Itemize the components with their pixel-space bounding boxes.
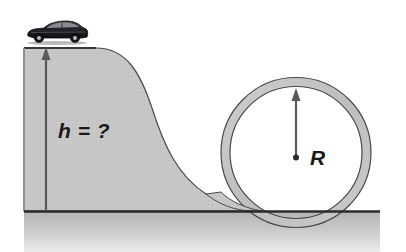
radius-label: R	[310, 146, 326, 169]
physics-diagram-figure: h = ? R	[0, 0, 406, 252]
radius-arrow	[292, 88, 301, 161]
car-wheel-rear	[34, 33, 43, 42]
car-shadow	[27, 41, 87, 45]
car-beltline	[31, 32, 85, 33]
loop-center-dot	[293, 155, 299, 161]
diagram-canvas: h = ? R	[0, 0, 406, 252]
height-label: h = ?	[58, 119, 110, 142]
car	[27, 21, 88, 45]
radius-arrow-head	[292, 88, 301, 101]
car-wheel-front	[70, 33, 79, 42]
